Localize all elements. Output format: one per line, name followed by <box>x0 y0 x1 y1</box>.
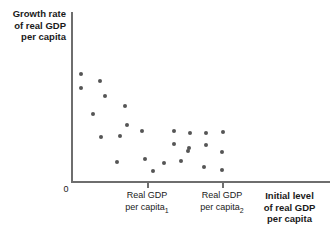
data-point <box>91 112 95 116</box>
data-point <box>204 143 208 147</box>
data-point <box>204 131 208 135</box>
data-point <box>162 161 166 165</box>
data-point <box>188 131 192 135</box>
data-point <box>220 168 224 172</box>
data-point <box>79 86 83 90</box>
data-point <box>220 150 224 154</box>
data-point <box>172 129 176 133</box>
data-point <box>221 130 225 134</box>
data-point <box>151 169 155 173</box>
data-point <box>143 157 147 161</box>
data-point <box>103 94 107 98</box>
data-point <box>187 146 191 150</box>
scatter-points-layer <box>0 0 333 237</box>
data-point <box>123 104 127 108</box>
data-point <box>115 160 119 164</box>
data-point <box>140 129 144 133</box>
data-point <box>79 72 83 76</box>
data-point <box>125 123 129 127</box>
data-point <box>202 165 206 169</box>
scatter-plot-figure: Growth rate of real GDP per capita 0 Rea… <box>0 0 333 237</box>
data-point <box>172 142 176 146</box>
data-point <box>118 134 122 138</box>
data-point <box>179 159 183 163</box>
data-point <box>99 135 103 139</box>
data-point <box>98 79 102 83</box>
